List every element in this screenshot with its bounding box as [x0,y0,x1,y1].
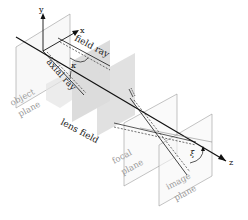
kappa-label: κ [70,61,77,70]
diagram-canvas: y x z κ ξ field ray axial ray lens field… [0,0,248,220]
optics-diagram: y x z κ ξ field ray axial ray lens field… [0,0,248,220]
y-axis-label: y [38,5,44,14]
z-axis-label: z [229,158,233,167]
xi-label: ξ [190,149,195,158]
lens-field-label: lens field [59,117,101,145]
z-axis-arrowhead [218,154,226,161]
